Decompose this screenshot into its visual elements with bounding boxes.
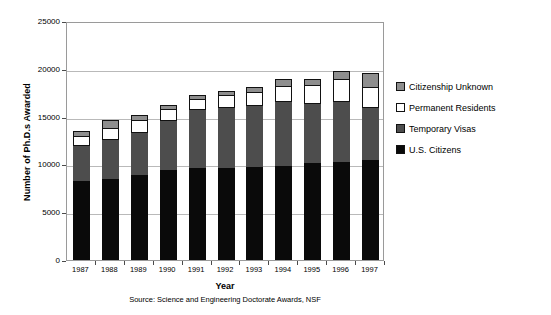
bar-column[interactable] [275,79,292,260]
legend-label: Citizenship Unknown [409,82,493,92]
bar-segment [362,160,379,260]
plot-area [66,22,384,261]
x-tick-mark [153,261,154,265]
y-tick-label: 25000 [16,18,60,26]
bar-segment [131,175,148,260]
bar-column[interactable] [102,120,119,260]
y-tick-label: 0 [16,257,60,265]
bar-segment [73,181,90,260]
bar-column[interactable] [73,131,90,260]
bar-column[interactable] [218,91,235,260]
bar-segment [160,120,177,170]
x-tick-mark [297,261,298,265]
bar-segment [246,167,263,260]
bar-segment [102,179,119,260]
legend-item[interactable]: Temporary Visas [396,118,546,139]
x-axis-title: Year [66,281,384,291]
legend-item[interactable]: Citizenship Unknown [396,76,546,97]
bar-segment [102,120,119,127]
bar-segment [246,92,263,104]
bar-column[interactable] [160,105,177,260]
bar-segment [102,128,119,139]
x-tick-mark [326,261,327,265]
x-tick-mark [384,261,385,265]
y-tick-label: 5000 [16,209,60,217]
x-tick-mark [239,261,240,265]
x-tick-mark [355,261,356,265]
bar-segment [333,162,350,260]
bar-segment [73,145,90,181]
legend-swatch-icon [396,124,405,133]
y-axis-title: Number of Ph.D.s Awarded [22,22,36,262]
legend-swatch-icon [396,103,405,112]
bar-column[interactable] [131,115,148,260]
bar-segment [304,85,321,103]
bar-group [67,23,383,260]
bar-segment [246,105,263,168]
bar-column[interactable] [304,79,321,260]
legend-item[interactable]: Permanent Residents [396,97,546,118]
bar-segment [275,79,292,86]
y-tick-label: 10000 [16,161,60,169]
bar-segment [73,136,90,145]
bar-segment [189,168,206,260]
bar-segment [218,95,235,106]
legend: Citizenship UnknownPermanent ResidentsTe… [396,76,546,160]
bar-segment [102,139,119,179]
legend-label: U.S. Citizens [409,145,461,155]
legend-label: Temporary Visas [409,124,476,134]
bar-segment [362,107,379,161]
bar-segment [131,132,148,175]
x-tick-mark [182,261,183,265]
y-tick-mark [62,261,66,262]
bar-segment [333,71,350,79]
legend-label: Permanent Residents [409,103,496,113]
bar-segment [189,99,206,109]
bar-segment [160,109,177,120]
legend-swatch-icon [396,82,405,91]
legend-item[interactable]: U.S. Citizens [396,139,546,160]
bar-segment [275,166,292,260]
bar-segment [275,86,292,101]
bar-segment [160,170,177,260]
bar-column[interactable] [246,87,263,260]
bar-column[interactable] [333,71,350,260]
legend-swatch-icon [396,145,405,154]
bar-column[interactable] [362,73,379,260]
x-tick-mark [124,261,125,265]
x-tick-mark [268,261,269,265]
bar-segment [304,103,321,163]
bar-segment [189,109,206,168]
bar-segment [333,79,350,101]
x-tick-mark [95,261,96,265]
bar-column[interactable] [189,95,206,260]
bar-segment [362,73,379,87]
bar-segment [304,163,321,260]
chart-figure: Number of Ph.D.s Awarded 250002000015000… [0,0,551,315]
bar-segment [275,101,292,166]
bar-segment [333,101,350,162]
y-tick-label: 20000 [16,66,60,74]
bar-segment [218,107,235,168]
bar-segment [218,168,235,260]
source-note: Source: Science and Engineering Doctorat… [30,295,420,304]
bar-segment [131,120,148,132]
x-tick-label: 1997 [353,266,387,274]
y-tick-label: 15000 [16,114,60,122]
bar-segment [362,87,379,107]
x-tick-mark [211,261,212,265]
